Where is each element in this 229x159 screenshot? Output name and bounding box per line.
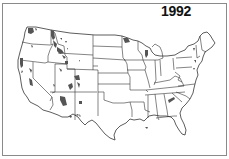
map-year-label: 1992 xyxy=(161,3,191,19)
us-map xyxy=(0,0,229,159)
us-outline xyxy=(18,27,215,140)
